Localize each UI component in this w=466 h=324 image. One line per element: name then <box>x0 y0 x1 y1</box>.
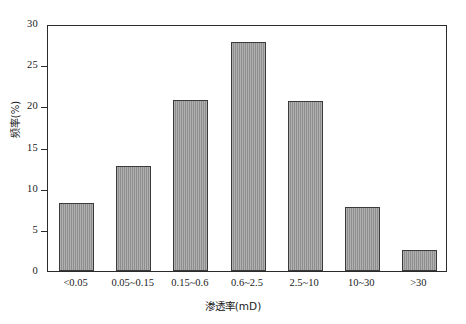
y-axis-tick-label: 20 <box>0 101 38 112</box>
bar <box>288 101 323 271</box>
x-axis-title: 渗透率(mD) <box>0 298 466 313</box>
bar <box>231 42 266 271</box>
bar <box>402 250 437 271</box>
bar <box>345 207 380 271</box>
chart-figure: 频率(%) 051015202530 <0.050.05~0.150.15~0.… <box>0 0 466 324</box>
y-axis-tick-label: 10 <box>0 184 38 195</box>
y-axis-tick-label: 25 <box>0 60 38 71</box>
y-axis-tick-label: 5 <box>0 225 38 236</box>
bar <box>59 203 94 271</box>
y-axis-tick-label: 0 <box>0 266 38 277</box>
y-axis-tick-label: 30 <box>0 19 38 30</box>
y-axis-tick-label: 15 <box>0 143 38 154</box>
bar <box>116 166 151 271</box>
plot-area <box>47 25 447 272</box>
bar <box>173 100 208 271</box>
x-axis-tick-label: >30 <box>373 278 463 289</box>
